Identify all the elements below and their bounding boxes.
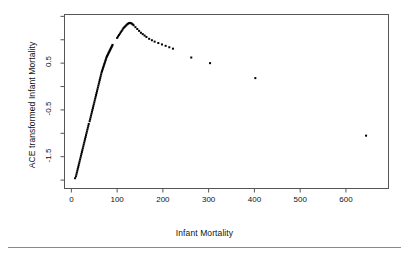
data-point — [79, 160, 81, 162]
data-point — [254, 77, 256, 79]
data-point — [86, 130, 88, 132]
data-point — [86, 129, 88, 131]
data-point — [92, 105, 94, 107]
data-point — [90, 115, 92, 117]
x-tick-label: 200 — [156, 195, 169, 204]
data-point — [94, 100, 96, 102]
data-point — [134, 26, 136, 28]
x-tick-label: 0 — [69, 195, 73, 204]
data-point — [96, 90, 98, 92]
data-point — [89, 118, 91, 120]
data-point — [94, 98, 96, 100]
data-point — [82, 145, 84, 147]
data-point — [85, 134, 87, 136]
data-point — [99, 77, 101, 79]
data-point — [78, 164, 80, 166]
data-point — [145, 36, 147, 38]
y-axis-ticks — [61, 16, 65, 180]
data-point — [85, 132, 87, 134]
data-point — [83, 144, 85, 146]
data-point — [83, 142, 85, 144]
data-point — [79, 159, 81, 161]
data-point — [136, 28, 138, 30]
data-point — [148, 38, 150, 40]
data-point — [85, 136, 87, 138]
data-point — [96, 88, 98, 90]
data-point — [91, 109, 93, 111]
data-point — [97, 86, 99, 88]
data-point — [87, 125, 89, 127]
x-axis-title: Infant Mortality — [0, 228, 409, 238]
data-point — [93, 103, 95, 105]
data-point — [138, 30, 140, 32]
footer-divider — [8, 247, 401, 248]
data-point — [96, 92, 98, 94]
data-point — [80, 157, 82, 159]
data-point — [365, 135, 367, 137]
data-point — [209, 62, 211, 64]
data-point — [77, 166, 79, 168]
data-point — [95, 94, 97, 96]
data-point — [80, 155, 82, 157]
plot-frame — [65, 15, 389, 189]
data-point — [82, 147, 84, 149]
data-point — [98, 81, 100, 83]
data-point — [142, 33, 144, 35]
x-axis-ticks — [71, 189, 346, 193]
x-tick-label: 600 — [339, 195, 352, 204]
data-point — [98, 83, 100, 85]
data-point — [81, 151, 83, 153]
data-point — [154, 41, 156, 43]
data-point — [91, 111, 93, 113]
data-point — [168, 46, 170, 48]
y-tick-label: 0.5 — [44, 50, 53, 74]
x-tick-label: 300 — [202, 195, 215, 204]
data-point — [74, 177, 76, 179]
data-point — [90, 116, 92, 118]
data-point — [92, 107, 94, 109]
x-tick-label: 400 — [248, 195, 261, 204]
data-point — [76, 170, 78, 172]
data-point — [80, 153, 82, 155]
data-point — [84, 140, 86, 142]
data-point-group — [74, 22, 367, 179]
data-point — [77, 168, 79, 170]
data-point — [89, 120, 91, 122]
data-point — [88, 123, 90, 125]
data-point — [161, 43, 163, 45]
data-point — [87, 127, 89, 129]
data-point — [97, 85, 99, 87]
data-point — [172, 48, 174, 50]
data-point — [84, 138, 86, 140]
data-point — [157, 42, 159, 44]
chart-figure: 0100200300400500600 -1.5-0.50.5 ACE tran… — [0, 0, 409, 254]
data-point — [190, 57, 192, 59]
data-point — [95, 96, 97, 98]
data-point — [93, 101, 95, 103]
data-point — [75, 175, 77, 177]
data-point — [144, 35, 146, 37]
data-point — [99, 79, 101, 81]
x-tick-label: 100 — [110, 195, 123, 204]
data-point — [165, 45, 167, 47]
data-point — [100, 73, 102, 75]
data-point — [81, 149, 83, 151]
data-point — [100, 75, 102, 77]
data-point — [133, 24, 135, 26]
data-point — [140, 32, 142, 34]
data-point — [75, 173, 77, 175]
data-point — [112, 44, 114, 46]
y-tick-label: -0.5 — [44, 96, 53, 120]
data-point — [76, 172, 78, 174]
data-point — [91, 113, 93, 115]
y-tick-label: -1.5 — [44, 143, 53, 167]
x-tick-label: 500 — [293, 195, 306, 204]
data-point — [78, 162, 80, 164]
y-axis-title: ACE transformed Infant Mortality — [27, 15, 37, 195]
scatter-plot-canvas — [0, 0, 409, 254]
data-point — [151, 39, 153, 41]
